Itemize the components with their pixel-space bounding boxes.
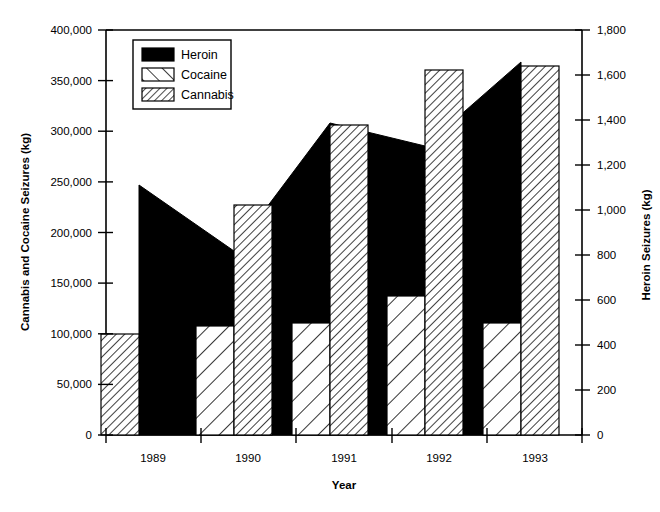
bar-cannabis-1991: [330, 125, 368, 435]
x-tick-label-1992: 1992: [426, 452, 452, 464]
legend-swatch-cannabis: [142, 88, 174, 101]
y-tick-label-100000: 100,000: [50, 328, 92, 340]
left-axis: 400,000 350,000 300,000 250,000 200,000 …: [19, 24, 113, 441]
y2-tick-label-1600: 1,600: [597, 69, 626, 81]
bottom-axis: 1989 1990 1991 1992 1993 Year: [106, 428, 582, 491]
chart-legend: Heroin Cocaine Cannabis: [133, 40, 234, 109]
seizures-chart: 400,000 350,000 300,000 250,000 200,000 …: [0, 0, 660, 512]
y-tick-label-0: 0: [86, 429, 92, 441]
y2-tick-label-400: 400: [597, 339, 616, 351]
bar-cocaine-1993: [483, 323, 521, 435]
legend-swatch-cocaine: [142, 68, 174, 81]
x-tick-label-1991: 1991: [331, 452, 357, 464]
bar-cannabis-1993: [521, 66, 559, 435]
legend-swatch-heroin: [142, 48, 174, 61]
x-axis-title: Year: [332, 479, 357, 491]
y-tick-label-350000: 350,000: [50, 75, 92, 87]
x-tick-label-1993: 1993: [522, 452, 548, 464]
y-tick-label-300000: 300,000: [50, 125, 92, 137]
y-tick-label-400000: 400,000: [50, 24, 92, 36]
y-tick-label-200000: 200,000: [50, 227, 92, 239]
bar-cannabis-1992: [425, 70, 463, 435]
chart-figure: 400,000 350,000 300,000 250,000 200,000 …: [0, 0, 660, 512]
y2-tick-label-1000: 1,000: [597, 204, 626, 216]
bar-cocaine-1991: [292, 323, 330, 435]
y2-tick-label-600: 600: [597, 294, 616, 306]
legend-label-cocaine: Cocaine: [181, 68, 227, 82]
x-tick-label-1990: 1990: [235, 452, 261, 464]
y2-tick-label-1200: 1,200: [597, 159, 626, 171]
bar-cannabis-1990: [234, 205, 272, 435]
bar-cocaine-1992: [387, 296, 425, 435]
right-axis-title: Heroin Seizures (kg): [640, 189, 652, 300]
right-axis: 1,800 1,600 1,400 1,200 1,000 800 600 40…: [575, 24, 652, 441]
y2-tick-label-800: 800: [597, 249, 616, 261]
y2-tick-label-1800: 1,800: [597, 24, 626, 36]
y-tick-label-50000: 50,000: [57, 378, 92, 390]
y2-tick-label-1400: 1,400: [597, 114, 626, 126]
left-axis-title: Cannabis and Cocaine Seizures (kg): [19, 133, 31, 331]
y2-tick-label-200: 200: [597, 384, 616, 396]
y2-tick-label-0: 0: [597, 429, 603, 441]
x-tick-label-1989: 1989: [140, 452, 166, 464]
y-tick-label-250000: 250,000: [50, 176, 92, 188]
legend-label-cannabis: Cannabis: [181, 88, 234, 102]
y-tick-label-150000: 150,000: [50, 277, 92, 289]
legend-label-heroin: Heroin: [181, 48, 218, 62]
bar-cocaine-1990: [196, 326, 234, 435]
